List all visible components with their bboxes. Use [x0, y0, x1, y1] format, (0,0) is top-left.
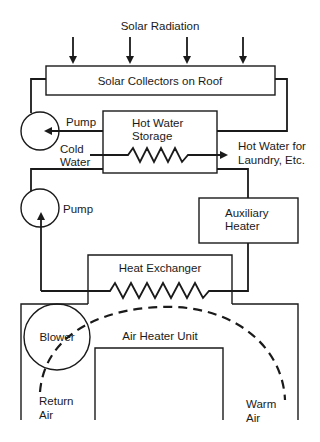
solar-radiation-label: Solar Radiation	[121, 20, 200, 32]
warm-air-label-2: Air	[246, 412, 260, 424]
pump-top-label: Pump	[66, 116, 96, 128]
auxiliary-heater-label-2: Heater	[225, 220, 260, 232]
hot-water-out-label-1: Hot Water for	[238, 140, 306, 152]
pump-middle-icon	[21, 189, 59, 227]
hot-water-storage-label-2: Storage	[132, 130, 172, 142]
cold-water-label-1: Cold	[60, 143, 84, 155]
cold-water-label-2: Water	[60, 156, 90, 168]
storage-coil	[90, 148, 226, 162]
pipe-storage-to-pump-middle	[31, 169, 103, 191]
auxiliary-heater-label-1: Auxiliary	[225, 207, 269, 219]
airflow-path	[40, 307, 285, 400]
pump-middle-label: Pump	[63, 203, 93, 215]
solar-radiation-arrows	[73, 37, 243, 62]
warm-air-label-1: Warm	[246, 398, 276, 410]
air-heater-unit-inner-plenum	[95, 348, 223, 420]
pipe-collectors-to-pump	[31, 79, 46, 113]
pipe-collectors-to-storage	[217, 79, 287, 131]
solar-collectors-label: Solar Collectors on Roof	[98, 75, 223, 87]
return-air-label-1: Return	[39, 395, 74, 407]
pipe-aux-heater-to-exchanger	[228, 243, 248, 291]
hot-water-storage-label-1: Hot Water	[132, 117, 184, 129]
heat-exchanger-coil	[41, 283, 248, 298]
pipe-storage-to-aux-heater	[217, 169, 248, 198]
heat-exchanger-label: Heat Exchanger	[119, 262, 202, 274]
solar-heating-diagram: Solar Radiation Solar Collectors on Roof…	[0, 0, 320, 442]
return-air-label-2: Air	[39, 409, 53, 421]
hot-water-out-label-2: Laundry, Etc.	[238, 154, 305, 166]
air-heater-unit-label: Air Heater Unit	[122, 330, 198, 342]
